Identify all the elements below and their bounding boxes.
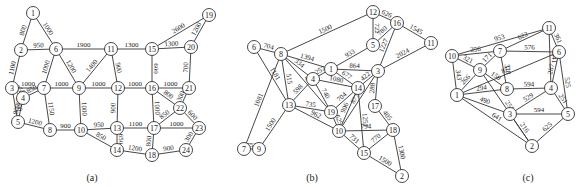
node-b-7: 7	[238, 143, 251, 156]
edge-weight-b-14-19: 704	[335, 90, 349, 103]
node-label: 3	[10, 84, 14, 93]
edge-weight-a-18-24: 900	[163, 144, 175, 154]
node-label: 12	[369, 8, 377, 17]
node-a-10: 10	[75, 124, 88, 137]
node-label: 19	[205, 11, 213, 20]
network-panel-b: 7041181150013943344825151081752150062672…	[238, 6, 438, 183]
node-label: 1	[31, 9, 35, 18]
node-b-12: 12	[367, 6, 380, 19]
edge-weight-c-5-2: 625	[541, 120, 555, 133]
node-a-8: 8	[44, 124, 57, 137]
edge-weight-c-7-6: 576	[524, 43, 535, 51]
edge-weight-c-6-5: 525	[563, 77, 572, 89]
edge-weight-b-18-2: 1300	[396, 145, 407, 161]
edge-weight-b-1-3: 864	[349, 62, 360, 70]
node-b-16: 16	[391, 17, 404, 30]
node-b-9: 9	[253, 143, 266, 156]
node-label: 4	[21, 94, 25, 103]
node-b-18: 18	[387, 124, 400, 137]
node-label: 5	[371, 41, 375, 50]
node-a-19: 19	[203, 9, 216, 22]
node-c-5: 5	[562, 108, 575, 121]
edge-weight-b-17-18: 405	[381, 109, 394, 123]
edge-weight-b-6-8: 704	[262, 41, 275, 52]
node-label: 16	[148, 84, 156, 93]
edge-weight-c-10-7: 356	[470, 45, 482, 54]
edge-weight-c-1-8: 294	[476, 83, 488, 92]
node-label: 6	[252, 43, 256, 52]
node-label: 3	[376, 67, 380, 76]
caption-c: (c)	[522, 172, 533, 184]
edge-weight-a-17-18: 800	[145, 135, 154, 147]
node-a-15: 15	[146, 43, 159, 56]
edge-weight-a-20-21: 700	[182, 61, 191, 72]
edge-weight-a-10-13: 950	[93, 121, 104, 130]
edge-weight-c-4-5: 251	[557, 92, 570, 106]
edge-weight-c-3-2: 216	[518, 121, 531, 135]
network-panel-a: 8001000950110010002501000850800120010001…	[6, 7, 216, 162]
node-label: 22	[176, 104, 184, 113]
node-b-10: 10	[333, 125, 346, 138]
node-b-4: 4	[307, 73, 320, 86]
node-label: 11	[545, 24, 553, 33]
node-label: 10	[448, 52, 456, 61]
edge-weight-a-16-21: 1000	[164, 80, 179, 88]
node-b-14: 14	[352, 82, 365, 95]
edge-weight-c-10-11: 953	[493, 33, 506, 44]
node-label: 6	[54, 45, 58, 54]
node-c-1: 1	[451, 89, 464, 102]
network-panel-c: 9533563213436225761713183619412661502518…	[446, 22, 575, 153]
edge-weight-c-1-2: 641	[490, 111, 504, 124]
node-label: 7	[42, 84, 46, 93]
node-b-19: 19	[325, 106, 338, 119]
node-a-16: 16	[146, 82, 159, 95]
node-c-7: 7	[494, 45, 507, 58]
edge-weight-a-13-17: 1100	[129, 120, 143, 128]
node-label: 18	[389, 126, 397, 135]
node-label: 6	[557, 48, 561, 57]
edge-weight-a-6-7: 1000	[40, 59, 52, 75]
node-a-13: 13	[111, 122, 124, 135]
node-label: 8	[48, 126, 52, 135]
node-a-3: 3	[6, 82, 19, 95]
node-label: 9	[478, 66, 482, 75]
node-c-2: 2	[526, 140, 539, 153]
node-label: 16	[393, 19, 401, 28]
node-c-6: 6	[553, 46, 566, 59]
node-b-5: 5	[367, 39, 380, 52]
edge-weight-b-3-17: 288	[368, 82, 377, 94]
node-label: 8	[279, 50, 283, 59]
node-label: 15	[148, 45, 156, 54]
node-label: 8	[505, 85, 509, 94]
caption-b: (b)	[306, 172, 318, 184]
node-label: 1	[455, 91, 459, 100]
node-c-10: 10	[446, 50, 459, 63]
edge-weight-b-5-1: 933	[343, 47, 357, 59]
node-label: 2	[19, 46, 23, 55]
node-b-11: 11	[425, 37, 438, 50]
edge-weight-b-15-18: 770	[369, 132, 383, 145]
node-label: 13	[113, 124, 121, 133]
edge-weight-a-12-13: 900	[109, 102, 117, 113]
node-b-6: 6	[248, 41, 261, 54]
node-label: 7	[498, 47, 502, 56]
network-diagrams: 8001000950110010002501000850800120010001…	[0, 0, 578, 187]
edge-weight-a-2-3: 1100	[7, 60, 18, 76]
edge-weight-c-8-4: 594	[524, 80, 535, 88]
edge-weight-b-10-18: 794	[361, 122, 372, 130]
node-c-8: 8	[501, 83, 514, 96]
node-label: 15	[360, 149, 368, 158]
edge-weight-a-15-20: 1300	[164, 40, 179, 49]
edge-weight-b-4-19: 740	[319, 87, 331, 100]
node-a-22: 22	[174, 102, 187, 115]
node-label: 11	[107, 45, 115, 54]
node-a-11: 11	[105, 43, 118, 56]
node-label: 17	[150, 124, 158, 133]
node-label: 2	[400, 172, 404, 181]
node-b-13: 13	[283, 99, 296, 112]
node-a-2: 2	[15, 44, 28, 57]
node-label: 4	[311, 75, 315, 84]
node-b-3: 3	[372, 65, 385, 78]
edge-weight-a-15-16: 600	[152, 63, 160, 74]
edge-weight-b-8-13: 515	[284, 73, 294, 85]
